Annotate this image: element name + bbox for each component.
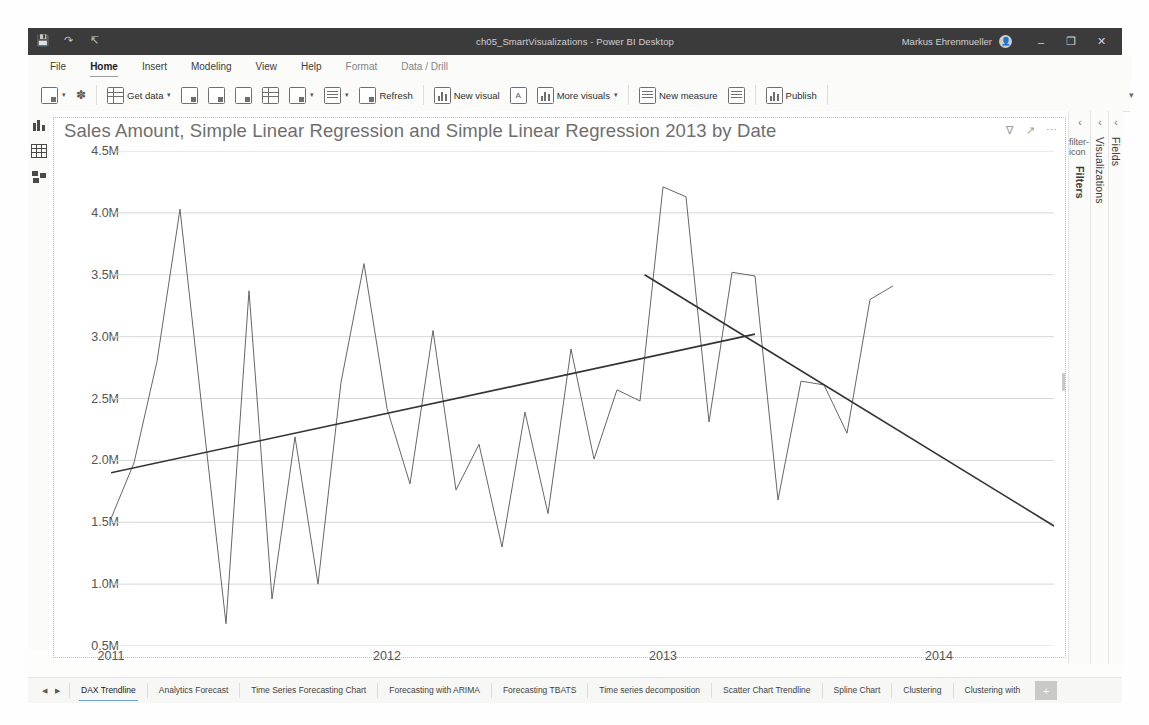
tab-file[interactable]: File — [38, 55, 78, 79]
excel-workbook-icon — [181, 87, 198, 104]
tab-view[interactable]: View — [244, 55, 290, 79]
new-visual-icon — [434, 87, 451, 104]
sql-server-button[interactable] — [230, 82, 257, 108]
power-bi-desktop-window: 💾 ↷ ↸ ch05_SmartVisualizations - Power B… — [0, 0, 1149, 725]
transform-data-button[interactable]: ▾ — [319, 82, 354, 108]
page-tab-forecasting-with-arima[interactable]: Forecasting with ARIMA — [378, 678, 491, 703]
close-button[interactable]: ✕ — [1086, 35, 1116, 48]
page-tab-scatter-chart-trendline[interactable]: Scatter Chart Trendline — [712, 678, 821, 703]
page-tab-forecasting-tbats[interactable]: Forecasting TBATS — [492, 678, 587, 703]
ribbon-divider — [96, 85, 97, 105]
series-group — [111, 187, 1054, 624]
x-axis-labels: 2011201220132014 — [111, 649, 1054, 667]
data-view-icon[interactable] — [31, 144, 47, 158]
tab-help[interactable]: Help — [289, 55, 334, 79]
new-measure-label: New measure — [659, 90, 718, 101]
next-page-button[interactable]: ▶ — [51, 684, 63, 698]
model-view-icon[interactable] — [32, 171, 46, 183]
paste-button[interactable]: ▾ — [36, 82, 71, 108]
ribbon-toolbar: ▾ ✽ Get data ▾ ▾ ▾ — [28, 79, 1130, 112]
chart-svg — [111, 151, 1054, 646]
filters-pane-label: Filters — [1074, 166, 1086, 199]
x-axis-tick-label: 2014 — [925, 649, 953, 663]
previous-page-button[interactable]: ◀ — [38, 684, 50, 698]
chart-plot-area: 0.5M1.0M1.5M2.0M2.5M3.0M3.5M4.0M4.5M 201… — [111, 151, 1054, 646]
dataverse-icon — [289, 87, 306, 104]
add-page-button[interactable]: + — [1035, 681, 1057, 700]
get-data-button[interactable]: Get data ▾ — [102, 82, 176, 108]
page-tab-clustering[interactable]: Clustering — [892, 678, 952, 703]
quick-measure-icon — [728, 87, 745, 104]
view-switcher-strip — [28, 111, 49, 649]
format-painter-icon: ✽ — [76, 89, 86, 101]
publish-button[interactable]: Publish — [761, 82, 822, 108]
page-tab-dax-trendline[interactable]: DAX Trendline — [70, 678, 147, 703]
line-chart-visual[interactable]: Sales Amount, Simple Linear Regression a… — [53, 117, 1066, 658]
more-visuals-icon — [537, 87, 554, 104]
ribbon-divider — [755, 85, 756, 105]
refresh-label: Refresh — [379, 90, 412, 101]
power-bi-datasets-icon — [208, 87, 225, 104]
tab-insert[interactable]: Insert — [130, 55, 179, 79]
excel-workbook-button[interactable] — [176, 82, 203, 108]
chevron-down-icon: ▾ — [614, 91, 618, 99]
visual-scroll-mark[interactable] — [1062, 373, 1065, 391]
text-box-button[interactable]: A — [505, 82, 532, 108]
chevron-down-icon: ▾ — [167, 91, 171, 99]
page-tab-analytics-forecast[interactable]: Analytics Forecast — [148, 678, 239, 703]
power-bi-datasets-button[interactable] — [203, 82, 230, 108]
tab-data-drill[interactable]: Data / Drill — [389, 55, 460, 79]
filter-icon[interactable]: ∇ — [1003, 124, 1015, 136]
chevron-down-icon: ▾ — [310, 91, 314, 99]
ribbon-tab-bar: File Home Insert Modeling View Help Form… — [28, 55, 1132, 79]
fields-pane-collapsed[interactable]: ‹ Fields — [1108, 111, 1123, 664]
title-bar: 💾 ↷ ↸ ch05_SmartVisualizations - Power B… — [28, 28, 1122, 55]
ribbon-divider — [423, 85, 424, 105]
page-tab-bar: ◀ ▶ DAX Trendline Analytics Forecast Tim… — [28, 677, 1122, 703]
scan-margin-bottom — [0, 703, 1149, 725]
visualizations-pane-collapsed[interactable]: ‹ Visualizations — [1090, 111, 1109, 664]
enter-data-button[interactable] — [257, 82, 284, 108]
page-nav-buttons: ◀ ▶ — [28, 684, 69, 698]
more-visuals-button[interactable]: More visuals ▾ — [532, 82, 623, 108]
page-tab-clustering-with[interactable]: Clustering with — [954, 678, 1032, 703]
avatar[interactable]: 👤 — [999, 35, 1012, 48]
tab-format[interactable]: Format — [334, 55, 390, 79]
new-measure-button[interactable]: New measure — [634, 82, 723, 108]
page-tab-spline-chart[interactable]: Spline Chart — [823, 678, 892, 703]
user-name: Markus Ehrenmueller — [902, 36, 992, 47]
page-tab-time-series-forecasting-chart[interactable]: Time Series Forecasting Chart — [240, 678, 377, 703]
report-view-icon[interactable] — [32, 119, 46, 131]
filters-pane-collapsed[interactable]: ‹ filter-icon Filters — [1068, 111, 1091, 664]
quick-measure-button[interactable] — [723, 82, 750, 108]
focus-mode-icon[interactable]: ↗ — [1024, 124, 1036, 136]
tab-modeling[interactable]: Modeling — [179, 55, 244, 79]
paste-icon — [41, 87, 58, 104]
page-tab-time-series-decomposition[interactable]: Time series decomposition — [588, 678, 711, 703]
expand-visualizations-icon[interactable]: ‹ — [1098, 118, 1101, 128]
ribbon-divider — [827, 85, 828, 105]
dataverse-button[interactable]: ▾ — [284, 82, 319, 108]
expand-fields-icon[interactable]: ‹ — [1114, 118, 1117, 128]
new-visual-label: New visual — [454, 90, 500, 101]
maximize-button[interactable]: ❐ — [1056, 35, 1086, 48]
publish-icon — [766, 87, 783, 104]
visual-title: Sales Amount, Simple Linear Regression a… — [64, 120, 776, 142]
ribbon-divider — [628, 85, 629, 105]
minimize-button[interactable]: – — [1026, 36, 1056, 48]
more-visuals-label: More visuals — [557, 90, 610, 101]
tab-home[interactable]: Home — [78, 55, 130, 79]
refresh-icon — [359, 87, 376, 104]
enter-data-icon — [262, 87, 279, 104]
new-visual-button[interactable]: New visual — [429, 82, 505, 108]
gridlines — [111, 151, 1054, 646]
report-canvas: Sales Amount, Simple Linear Regression a… — [49, 111, 1068, 664]
collapse-ribbon-button[interactable]: ▾ — [1121, 79, 1141, 111]
more-options-icon[interactable]: ⋯ — [1045, 124, 1057, 136]
refresh-button[interactable]: Refresh — [354, 82, 417, 108]
publish-label: Publish — [786, 90, 817, 101]
expand-filters-icon[interactable]: ‹ — [1078, 118, 1081, 128]
visualizations-pane-label: Visualizations — [1094, 137, 1106, 204]
series-line-sales-amount — [111, 187, 893, 624]
format-painter-button[interactable]: ✽ — [71, 82, 91, 108]
